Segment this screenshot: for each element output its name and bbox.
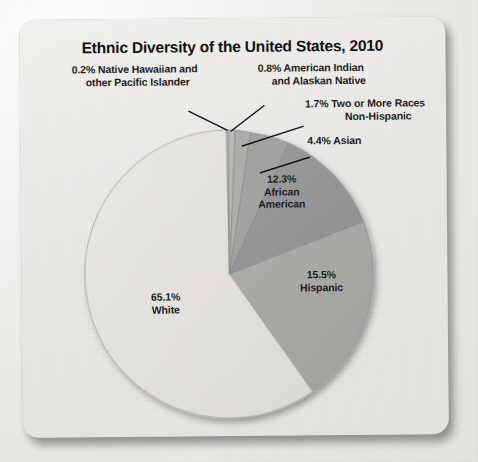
label-asian: 4.4% Asian (307, 133, 417, 147)
label-hispanic-name: Hispanic (300, 281, 343, 293)
label-american-indian-line1: 0.8% American Indian (258, 61, 364, 74)
label-hispanic: 15.5% Hispanic (275, 268, 367, 294)
label-native-hawaiian-line2: other Pacific Islander (86, 75, 190, 88)
chart-card-frame: Ethnic Diversity of the United States, 2… (19, 16, 449, 438)
label-white-pct: 65.1% (151, 290, 180, 302)
label-african-american-pct: 12.3% (267, 172, 296, 184)
label-african-american: 12.3% African American (236, 172, 328, 211)
label-african-american-line3: American (258, 198, 305, 210)
chart-inner-area: Ethnic Diversity of the United States, 2… (19, 16, 449, 438)
leader-line-american-indian (231, 106, 264, 131)
label-white: 65.1% White (120, 290, 212, 316)
label-american-indian-line2: and Alaskan Native (258, 73, 366, 87)
label-two-or-more-races: 1.7% Two or More Races Non-Hispanic (305, 96, 447, 122)
label-two-or-more-races-line1: 1.7% Two or More Races (305, 96, 425, 109)
label-african-american-line2: African (264, 185, 300, 197)
label-native-hawaiian: 0.2% Native Hawaiian and other Pacific I… (72, 62, 190, 88)
label-american-indian: 0.8% American Indian and Alaskan Native (258, 60, 408, 86)
leader-line-native-hawaiian (189, 111, 227, 130)
label-two-or-more-races-line2: Non-Hispanic (305, 109, 412, 123)
label-white-name: White (152, 303, 180, 315)
label-hispanic-pct: 15.5% (307, 268, 336, 280)
label-native-hawaiian-line1: 0.2% Native Hawaiian and (72, 62, 198, 75)
